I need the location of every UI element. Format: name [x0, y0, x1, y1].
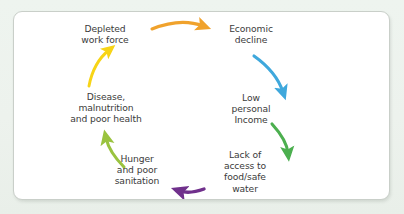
arrow-economic-to-lowincome	[254, 56, 283, 92]
arrow-disease-to-depleted	[89, 50, 109, 86]
cycle-arrows	[14, 12, 390, 200]
arrow-hunger-to-disease	[106, 138, 124, 167]
diagram-canvas: Depleted work force Economic decline Low…	[0, 0, 404, 214]
diagram-card: Depleted work force Economic decline Low…	[13, 11, 390, 200]
arrow-depleted-to-economic	[152, 23, 203, 29]
arrow-lowincome-to-lackof	[272, 124, 288, 153]
arrow-lackof-to-hunger	[180, 189, 204, 192]
